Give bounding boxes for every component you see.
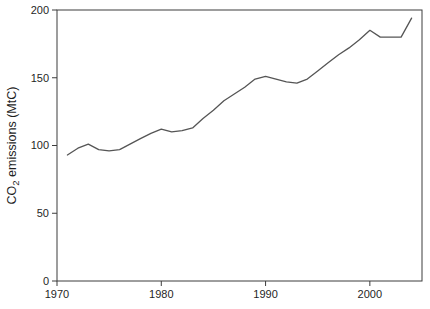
y-axis-tick-label: 0 — [43, 275, 49, 287]
y-axis-tick-label: 150 — [31, 72, 49, 84]
chart-canvas: 0501001502001970198019902000CO2 emission… — [0, 0, 430, 309]
y-axis-tick-label: 50 — [37, 207, 49, 219]
emissions-line — [67, 18, 411, 155]
co2-emissions-figure: 0501001502001970198019902000CO2 emission… — [0, 0, 430, 309]
plot-border — [57, 10, 422, 281]
y-axis-tick-label: 200 — [31, 4, 49, 16]
x-axis-tick-label: 1970 — [45, 288, 69, 300]
y-axis-title: CO2 emissions (MtC) — [5, 87, 21, 205]
x-axis-tick-label: 1990 — [253, 288, 277, 300]
y-axis-tick-label: 100 — [31, 139, 49, 151]
x-axis-tick-label: 1980 — [149, 288, 173, 300]
x-axis-tick-label: 2000 — [358, 288, 382, 300]
